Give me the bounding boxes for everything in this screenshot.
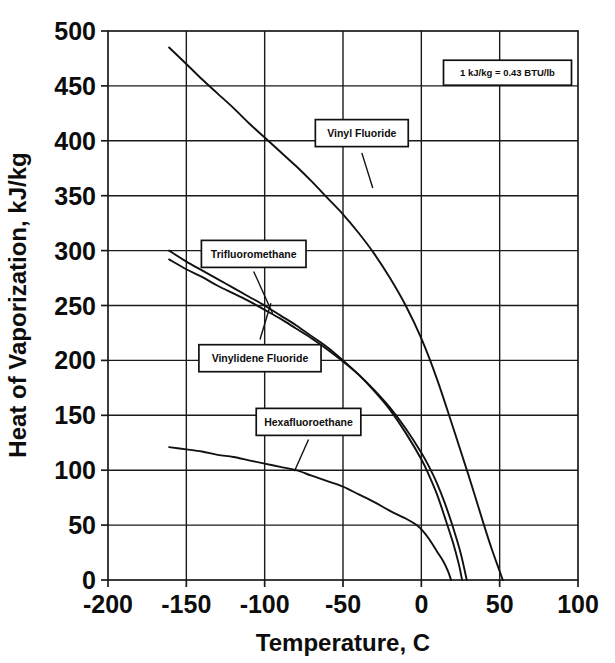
leader-line-vinyl-fluoride bbox=[362, 153, 373, 188]
y-axis-title: Heat of Vaporization, kJ/kg bbox=[4, 152, 31, 457]
series-callout-labels: Vinyl FluorideTrifluoromethaneVinylidene… bbox=[199, 120, 408, 436]
chart-container: 050100150200250300350400450500 -200-150-… bbox=[0, 0, 615, 663]
unit-note-annotation: 1 kJ/kg = 0.43 BTU/lb bbox=[444, 60, 572, 85]
y-tick-label: 200 bbox=[54, 346, 96, 374]
tick-marks bbox=[101, 31, 578, 587]
callout-vinyl-fluoride[interactable]: Vinyl Fluoride bbox=[315, 120, 408, 147]
x-tick-label: 50 bbox=[486, 590, 514, 618]
x-tick-label: 100 bbox=[557, 590, 599, 618]
y-axis-tick-labels: 050100150200250300350400450500 bbox=[54, 17, 96, 594]
grid-lines bbox=[108, 31, 578, 580]
callout-label: Vinyl Fluoride bbox=[327, 127, 396, 139]
annotation-unit-note: 1 kJ/kg = 0.43 BTU/lb bbox=[444, 60, 572, 85]
y-tick-label: 50 bbox=[68, 511, 96, 539]
callout-label: Trifluoromethane bbox=[211, 248, 297, 260]
y-tick-label: 350 bbox=[54, 182, 96, 210]
x-tick-label: -100 bbox=[240, 590, 290, 618]
x-tick-label: -200 bbox=[83, 590, 133, 618]
callout-vinylidene-fluoride[interactable]: Vinylidene Fluoride bbox=[199, 345, 321, 372]
y-tick-label: 100 bbox=[54, 456, 96, 484]
x-tick-label: 0 bbox=[414, 590, 428, 618]
heat-of-vaporization-chart: 050100150200250300350400450500 -200-150-… bbox=[0, 0, 615, 663]
callout-label: Hexafluoroethane bbox=[264, 416, 353, 428]
x-axis-title: Temperature, C bbox=[256, 629, 430, 656]
x-axis-tick-labels: -200-150-100-50050100 bbox=[83, 590, 599, 618]
y-tick-label: 250 bbox=[54, 292, 96, 320]
note-label: 1 kJ/kg = 0.43 BTU/lb bbox=[460, 67, 555, 78]
callout-label: Vinylidene Fluoride bbox=[212, 352, 309, 364]
y-tick-label: 150 bbox=[54, 401, 96, 429]
y-tick-label: 450 bbox=[54, 72, 96, 100]
callout-trifluoromethane[interactable]: Trifluoromethane bbox=[201, 240, 306, 267]
y-tick-label: 400 bbox=[54, 127, 96, 155]
x-tick-label: -150 bbox=[161, 590, 211, 618]
leader-line-hexafluoroethane bbox=[294, 439, 308, 471]
x-tick-label: -50 bbox=[325, 590, 361, 618]
callout-hexafluoroethane[interactable]: Hexafluoroethane bbox=[256, 408, 361, 435]
y-tick-label: 500 bbox=[54, 17, 96, 45]
series-line-hexafluoroethane bbox=[169, 447, 451, 580]
y-tick-label: 300 bbox=[54, 237, 96, 265]
